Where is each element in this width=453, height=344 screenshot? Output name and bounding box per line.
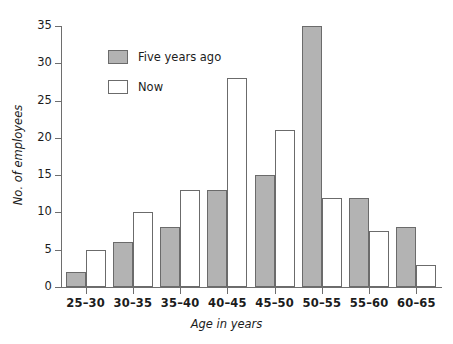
x-axis-tick — [86, 287, 87, 294]
bar-five-years-ago-45-50 — [255, 175, 275, 287]
legend-swatch-icon-five-years-ago — [108, 50, 128, 64]
legend-label-now: Now — [138, 81, 163, 93]
y-axis-tick-label: 30 — [12, 57, 52, 69]
bar-now-60-65 — [416, 265, 436, 287]
chart-legend: Five years ago Now — [108, 48, 221, 108]
x-axis-tick — [133, 287, 134, 294]
legend-item-now: Now — [108, 78, 221, 95]
y-axis-tick-label: 0 — [12, 281, 52, 293]
y-axis-tick-label: 5 — [12, 244, 52, 256]
y-axis-tick — [55, 287, 61, 288]
y-axis-tick-label: 35 — [12, 20, 52, 32]
bar-now-40-45 — [227, 78, 247, 287]
x-axis-tick — [180, 287, 181, 294]
y-axis-tick — [55, 63, 61, 64]
bar-chart: 05101520253035 25–3030–3535–4040–4545–50… — [0, 0, 453, 344]
bar-five-years-ago-40-45 — [207, 190, 227, 287]
y-axis-tick — [55, 212, 61, 213]
x-axis-tick — [275, 287, 276, 294]
x-axis-tick — [369, 287, 370, 294]
legend-label-five-years-ago: Five years ago — [138, 51, 221, 63]
bar-now-45-50 — [275, 130, 295, 287]
legend-swatch-icon-now — [108, 80, 128, 94]
bar-now-35-40 — [180, 190, 200, 287]
bar-now-55-60 — [369, 231, 389, 287]
y-axis-tick — [55, 250, 61, 251]
bar-now-30-35 — [133, 212, 153, 287]
bar-five-years-ago-60-65 — [396, 227, 416, 287]
y-axis-tick — [55, 175, 61, 176]
y-axis-title: No. of employees — [11, 75, 25, 235]
bar-five-years-ago-30-35 — [113, 242, 133, 287]
y-axis-tick — [55, 138, 61, 139]
x-axis-line — [61, 287, 442, 288]
x-axis-tick — [227, 287, 228, 294]
bar-now-50-55 — [322, 198, 342, 287]
x-axis-tick — [322, 287, 323, 294]
bar-five-years-ago-25-30 — [66, 272, 86, 287]
y-axis-tick — [55, 101, 61, 102]
x-axis-title: Age in years — [0, 317, 453, 331]
bar-five-years-ago-55-60 — [349, 198, 369, 287]
legend-item-five-years-ago: Five years ago — [108, 48, 221, 65]
x-axis-tick-label: 60–65 — [388, 297, 444, 309]
x-axis-tick — [416, 287, 417, 294]
bar-five-years-ago-35-40 — [160, 227, 180, 287]
y-axis-tick — [55, 26, 61, 27]
bar-five-years-ago-50-55 — [302, 26, 322, 287]
bar-now-25-30 — [86, 250, 106, 287]
